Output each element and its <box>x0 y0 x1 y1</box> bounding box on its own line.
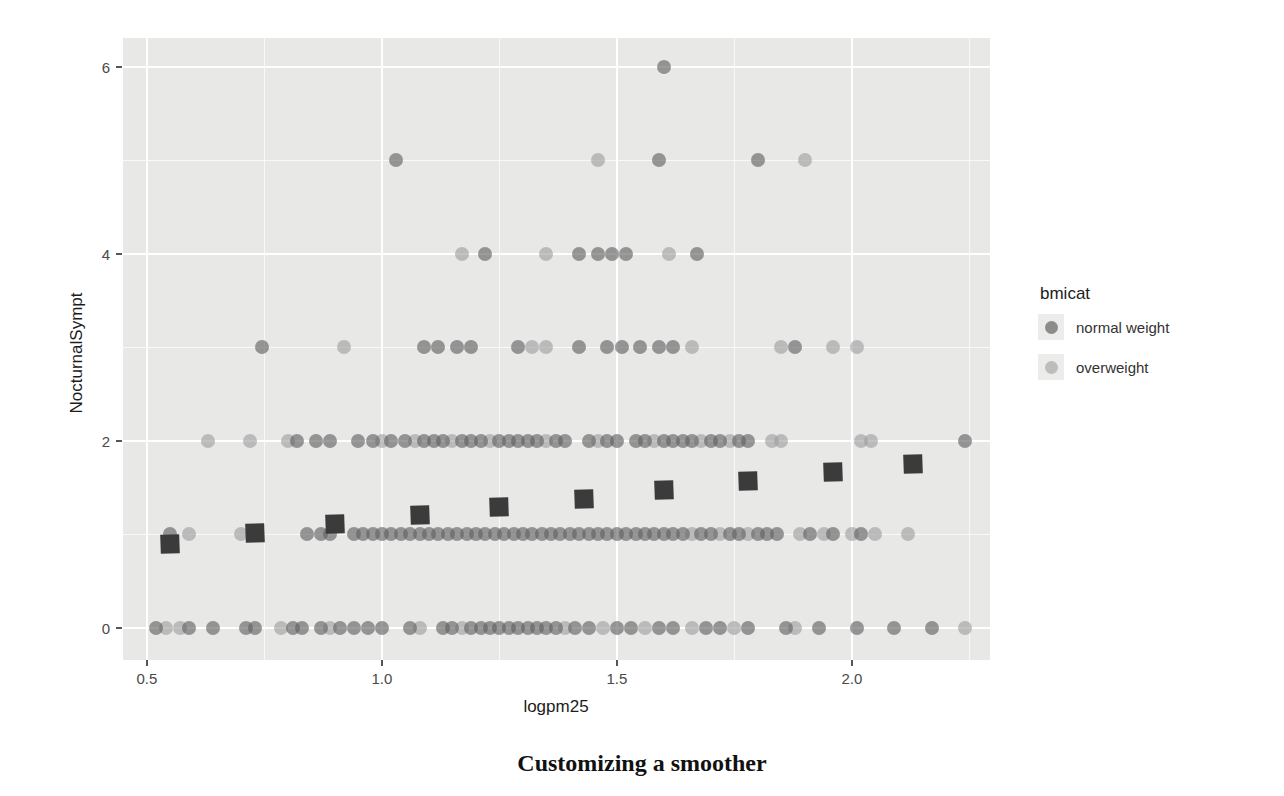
scatter-point-normal-weight <box>431 340 445 354</box>
scatter-point-normal-weight <box>398 434 412 448</box>
scatter-point-normal-weight <box>295 621 309 635</box>
scatter-point-normal-weight <box>666 621 680 635</box>
scatter-point-normal-weight <box>652 621 666 635</box>
scatter-point-overweight <box>774 340 788 354</box>
scatter-point-overweight <box>539 340 553 354</box>
x-major-gridline <box>381 38 383 660</box>
scatter-point-normal-weight <box>464 340 478 354</box>
scatter-point-normal-weight <box>887 621 901 635</box>
scatter-point-normal-weight <box>417 340 431 354</box>
x-tick-label: 1.0 <box>371 671 392 686</box>
scatter-point-normal-weight <box>450 340 464 354</box>
scatter-point-normal-weight <box>314 621 328 635</box>
scatter-point-overweight <box>525 340 539 354</box>
legend-key <box>1038 354 1064 380</box>
legend-entry: normal weight <box>1038 314 1169 340</box>
y-major-gridline <box>123 253 990 255</box>
scatter-point-normal-weight <box>403 621 417 635</box>
scatter-point-normal-weight <box>610 621 624 635</box>
scatter-point-overweight <box>539 247 553 261</box>
scatter-point-normal-weight <box>530 434 544 448</box>
scatter-point-normal-weight <box>384 434 398 448</box>
smoother-square <box>574 489 594 509</box>
legend-entries: normal weightoverweight <box>1038 314 1169 380</box>
legend-entry-label: normal weight <box>1076 319 1169 336</box>
legend-key <box>1038 314 1064 340</box>
scatter-point-normal-weight <box>751 153 765 167</box>
scatter-point-normal-weight <box>300 527 314 541</box>
scatter-point-normal-weight <box>206 621 220 635</box>
scatter-point-normal-weight <box>638 434 652 448</box>
scatter-point-normal-weight <box>361 621 375 635</box>
scatter-point-normal-weight <box>676 527 690 541</box>
scatter-point-overweight <box>596 621 610 635</box>
scatter-point-normal-weight <box>666 340 680 354</box>
scatter-point-normal-weight <box>436 434 450 448</box>
scatter-point-normal-weight <box>610 434 624 448</box>
scatter-point-overweight <box>868 527 882 541</box>
scatter-point-normal-weight <box>652 340 666 354</box>
scatter-point-normal-weight <box>375 621 389 635</box>
scatter-point-normal-weight <box>615 340 629 354</box>
legend-entry: overweight <box>1038 354 1169 380</box>
y-tick-label: 0 <box>102 620 110 635</box>
scatter-point-normal-weight <box>333 621 347 635</box>
scatter-point-overweight <box>337 340 351 354</box>
y-tick-label: 4 <box>102 246 110 261</box>
smoother-square <box>325 514 345 534</box>
scatter-point-normal-weight <box>309 434 323 448</box>
figure: NocturnalSympt logpm25 bmicat normal wei… <box>0 0 1284 796</box>
x-minor-gridline <box>969 38 970 660</box>
plot-panel <box>123 38 990 660</box>
y-tick-mark <box>116 253 122 255</box>
x-tick-label: 2.0 <box>841 671 862 686</box>
smoother-square <box>410 505 430 525</box>
y-minor-gridline <box>123 160 990 161</box>
scatter-point-overweight <box>685 621 699 635</box>
scatter-point-normal-weight <box>958 434 972 448</box>
smoother-square <box>823 462 843 482</box>
scatter-point-normal-weight <box>657 60 671 74</box>
scatter-point-normal-weight <box>741 434 755 448</box>
x-tick-mark <box>381 660 383 666</box>
scatter-point-overweight <box>182 527 196 541</box>
scatter-point-normal-weight <box>366 434 380 448</box>
scatter-point-normal-weight <box>619 247 633 261</box>
scatter-point-overweight <box>774 434 788 448</box>
scatter-point-normal-weight <box>779 621 793 635</box>
scatter-point-normal-weight <box>549 621 563 635</box>
scatter-point-normal-weight <box>474 434 488 448</box>
scatter-point-normal-weight <box>690 247 704 261</box>
scatter-point-normal-weight <box>633 340 647 354</box>
scatter-point-normal-weight <box>568 621 582 635</box>
scatter-point-overweight <box>864 434 878 448</box>
y-tick-mark <box>116 627 122 629</box>
scatter-point-normal-weight <box>803 527 817 541</box>
scatter-point-normal-weight <box>826 527 840 541</box>
scatter-point-normal-weight <box>591 247 605 261</box>
smoother-square <box>739 471 759 491</box>
x-tick-label: 1.5 <box>606 671 627 686</box>
scatter-point-normal-weight <box>713 434 727 448</box>
scatter-point-normal-weight <box>741 621 755 635</box>
legend-point-icon <box>1045 361 1058 374</box>
scatter-point-normal-weight <box>770 527 784 541</box>
smoother-square <box>903 454 923 474</box>
scatter-point-overweight <box>591 153 605 167</box>
scatter-point-normal-weight <box>925 621 939 635</box>
scatter-point-normal-weight <box>149 621 163 635</box>
scatter-point-normal-weight <box>652 153 666 167</box>
y-tick-label: 6 <box>102 59 110 74</box>
smoother-square <box>490 498 510 518</box>
x-tick-mark <box>146 660 148 666</box>
smoother-square <box>245 523 265 543</box>
scatter-point-overweight <box>685 340 699 354</box>
x-axis-title: logpm25 <box>523 697 588 717</box>
x-tick-label: 0.5 <box>137 671 158 686</box>
scatter-point-overweight <box>727 621 741 635</box>
scatter-point-normal-weight <box>478 247 492 261</box>
x-tick-mark <box>616 660 618 666</box>
x-tick-mark <box>851 660 853 666</box>
scatter-point-normal-weight <box>600 340 614 354</box>
scatter-point-normal-weight <box>854 527 868 541</box>
